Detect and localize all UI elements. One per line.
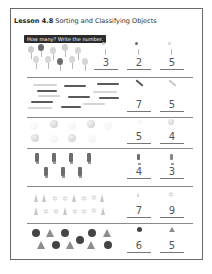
balloon-icon xyxy=(50,47,56,54)
circle-icon xyxy=(32,229,40,237)
pencil-icon xyxy=(28,107,52,109)
row-divider xyxy=(27,77,193,78)
figure-icon xyxy=(61,167,65,176)
pencil-icon xyxy=(61,106,81,108)
leaf-icon xyxy=(100,194,104,202)
circle-icon xyxy=(61,229,69,237)
flake-category-icon: ✲ xyxy=(168,192,174,198)
triangle-icon xyxy=(87,241,95,249)
pencil-icon xyxy=(68,96,90,98)
dark-balloon-icon xyxy=(135,42,138,45)
flake-icon: ✲ xyxy=(62,196,68,202)
light-balloon-icon xyxy=(102,42,105,45)
pencil-icon xyxy=(99,97,119,99)
figure-b-icon xyxy=(170,154,173,160)
pencil-icon xyxy=(31,101,53,103)
balloon-icon xyxy=(57,58,63,65)
pencil-icon xyxy=(33,84,57,86)
answer-field[interactable]: 5 xyxy=(127,131,151,144)
balloon-icon xyxy=(82,58,88,65)
leaf-icon xyxy=(34,207,38,215)
answer-field[interactable]: 3 xyxy=(160,166,184,179)
answer-field[interactable]: 3 xyxy=(94,57,118,70)
ball-icon xyxy=(50,135,58,143)
answer-field[interactable]: 2 xyxy=(127,57,151,70)
triangle-icon xyxy=(103,229,111,237)
ball-icon xyxy=(31,134,39,142)
pencil-icon xyxy=(97,83,119,85)
figure-icon xyxy=(52,153,56,162)
ball-icon xyxy=(30,122,38,130)
balloon-icon xyxy=(28,46,34,53)
answer-field[interactable]: 7 xyxy=(127,99,151,112)
triangle-icon xyxy=(37,241,45,249)
leaf-icon xyxy=(101,207,105,215)
figure-icon xyxy=(35,153,39,162)
balloon-icon xyxy=(69,56,75,63)
leaf-icon xyxy=(42,194,46,202)
flake-icon: ✲ xyxy=(81,196,87,202)
lesson-number: Lesson 4.8 xyxy=(14,17,53,25)
balloon-icon xyxy=(38,44,44,51)
answer-field[interactable]: 5 xyxy=(160,240,184,253)
circle-icon xyxy=(104,241,112,249)
balloon-icon xyxy=(45,56,51,63)
figure-icon xyxy=(87,153,91,162)
row-divider xyxy=(27,186,193,187)
leaf-icon xyxy=(63,207,67,215)
circle-icon xyxy=(76,236,84,244)
ball-icon xyxy=(68,122,76,130)
balloon-icon xyxy=(75,47,81,54)
answer-field[interactable]: 5 xyxy=(160,99,184,112)
figure-icon xyxy=(44,167,48,176)
flake-icon: ✲ xyxy=(91,208,97,214)
flake-icon: ✲ xyxy=(91,195,97,201)
flake-icon: ✲ xyxy=(53,209,59,215)
flake-icon: ✲ xyxy=(72,209,78,215)
answer-field[interactable]: 6 xyxy=(127,240,151,253)
pencil-icon xyxy=(64,85,86,87)
flake-icon: ✲ xyxy=(43,209,49,215)
triangle-icon xyxy=(46,229,54,237)
figure-icon xyxy=(69,153,73,162)
circle-icon xyxy=(88,229,96,237)
triangle-category-icon xyxy=(169,227,175,232)
answer-field[interactable]: 5 xyxy=(160,57,184,70)
figure-a-icon xyxy=(137,154,140,160)
pencil-icon xyxy=(83,103,105,105)
answer-field[interactable]: 7 xyxy=(127,205,151,218)
leaf-icon xyxy=(72,194,76,202)
ball-icon xyxy=(88,135,96,143)
pencil-icon xyxy=(38,95,60,97)
answer-field[interactable]: 4 xyxy=(127,166,151,179)
ball-icon xyxy=(104,122,112,130)
leaf-category-icon xyxy=(137,192,139,197)
shaded-ball-icon xyxy=(168,119,174,125)
balloon-icon xyxy=(33,56,39,63)
ball-icon xyxy=(87,120,95,128)
circle-icon xyxy=(52,241,60,249)
instruction-banner: How many? Write the number. xyxy=(24,35,106,43)
row-divider xyxy=(27,223,193,224)
pale-balloon-icon xyxy=(168,42,171,45)
circle-category-icon xyxy=(137,227,142,232)
page-title: Lesson 4.8 Sorting and Classifying Objec… xyxy=(14,17,157,25)
pencil-icon xyxy=(37,90,57,92)
row-divider xyxy=(27,148,193,149)
flake-icon: ✲ xyxy=(81,209,87,215)
lesson-title: Sorting and Classifying Objects xyxy=(55,17,156,25)
leaf-icon xyxy=(34,194,38,202)
flake-icon: ✲ xyxy=(52,196,58,202)
ball-icon xyxy=(68,134,76,142)
answer-field[interactable]: 4 xyxy=(160,131,184,144)
ball-icon xyxy=(50,120,58,128)
row-divider xyxy=(27,117,193,118)
balloon-icon xyxy=(62,44,68,51)
answer-field[interactable]: 9 xyxy=(160,205,184,218)
faint-ball-icon xyxy=(137,119,142,124)
figure-icon xyxy=(78,167,82,176)
pencil-icon xyxy=(93,91,117,93)
triangle-icon xyxy=(66,241,74,249)
